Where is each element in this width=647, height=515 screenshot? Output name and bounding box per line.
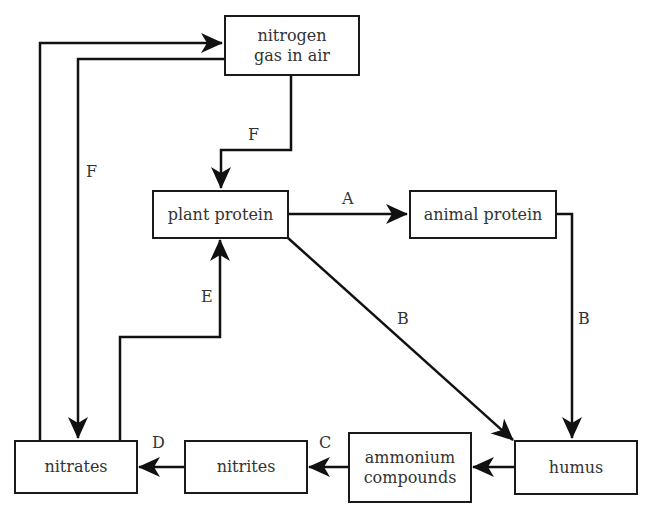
node-animal-protein: animal protein [409,190,557,239]
edge-label-b-right: B [578,309,590,328]
node-nitrates-label: nitrates [44,457,107,477]
node-nitrites-label: nitrites [217,457,276,477]
node-humus-label: humus [549,458,603,478]
edge-label-a: A [342,189,354,208]
edge-label-e: E [201,287,213,306]
arrow-animal-to-humus [556,214,572,438]
node-plant-protein-label: plant protein [168,205,274,225]
edge-label-f-left: F [86,162,97,181]
arrow-nitrogen-to-nitrates [78,59,224,438]
node-humus: humus [514,440,638,495]
node-nitrates: nitrates [14,440,138,494]
edge-label-d: D [152,433,165,452]
node-nitrogen-gas: nitrogen gas in air [224,15,360,76]
node-nitrites: nitrites [184,440,308,494]
node-ammonium-line1: ammonium [365,448,455,468]
arrow-nitrates-to-nitrogen [40,43,222,440]
node-nitrogen-line2: gas in air [254,46,330,66]
node-ammonium-compounds: ammonium compounds [348,432,472,503]
node-ammonium-line2: compounds [364,468,457,488]
node-plant-protein: plant protein [152,190,289,239]
edge-label-c: C [319,433,331,452]
node-animal-protein-label: animal protein [424,205,543,225]
arrow-plant-to-humus [288,238,513,440]
nitrogen-cycle-diagram: nitrogen gas in air plant protein animal… [0,0,647,515]
arrow-nitrates-to-plant [120,240,220,440]
node-nitrogen-line1: nitrogen [257,26,326,46]
edge-label-b-diag: B [397,309,409,328]
edge-label-f-top: F [248,125,259,144]
